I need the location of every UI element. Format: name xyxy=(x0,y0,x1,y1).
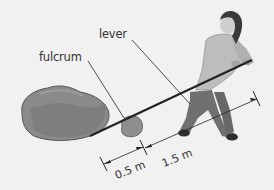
lever-leader-line xyxy=(132,40,190,104)
lever-label: lever xyxy=(99,27,127,41)
fulcrum-label: fulcrum xyxy=(39,50,82,64)
